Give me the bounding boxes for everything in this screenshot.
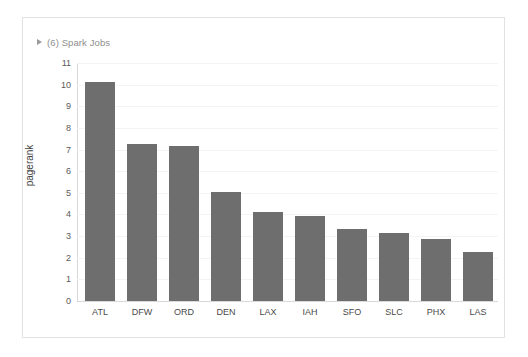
bar-slc (379, 233, 409, 301)
y-tick-label: 8 (53, 123, 71, 133)
x-tick-label-ord: ORD (163, 307, 205, 317)
bar-sfo (337, 229, 367, 301)
y-tick-label: 1 (53, 274, 71, 284)
x-tick-label-dfw: DFW (121, 307, 163, 317)
bar-den (211, 192, 241, 301)
spark-output-card: (6) Spark Jobs pagerank 01234567891011 A… (22, 17, 505, 338)
x-tick-label-phx: PHX (415, 307, 457, 317)
bar-dfw (127, 144, 157, 301)
y-tick-label: 5 (53, 188, 71, 198)
x-tick-label-iah: IAH (289, 307, 331, 317)
x-tick-label-las: LAS (457, 307, 499, 317)
y-tick-label: 9 (53, 101, 71, 111)
bar-las (463, 252, 493, 301)
y-tick-label: 0 (53, 296, 71, 306)
gridline (77, 85, 498, 86)
x-tick-label-sfo: SFO (331, 307, 373, 317)
plot-area (77, 63, 498, 301)
y-tick-label: 10 (53, 80, 71, 90)
y-tick-label: 3 (53, 231, 71, 241)
x-axis-line (77, 301, 498, 302)
y-axis-tick-labels: 01234567891011 (49, 18, 71, 339)
bar-phx (421, 239, 451, 301)
bar-lax (253, 212, 283, 301)
x-tick-label-atl: ATL (79, 307, 121, 317)
gridline (77, 63, 498, 64)
x-tick-label-lax: LAX (247, 307, 289, 317)
y-tick-label: 6 (53, 166, 71, 176)
bar-atl (85, 82, 115, 301)
gridline (77, 106, 498, 107)
x-tick-label-den: DEN (205, 307, 247, 317)
y-tick-label: 2 (53, 253, 71, 263)
y-tick-label: 11 (53, 58, 71, 68)
y-axis-title: pagerank (24, 145, 35, 187)
y-tick-label: 7 (53, 145, 71, 155)
y-tick-label: 4 (53, 209, 71, 219)
bar-iah (295, 216, 325, 301)
pagerank-bar-chart: pagerank 01234567891011 ATLDFWORDDENLAXI… (23, 18, 506, 339)
x-tick-label-slc: SLC (373, 307, 415, 317)
gridline (77, 128, 498, 129)
bar-ord (169, 146, 199, 301)
